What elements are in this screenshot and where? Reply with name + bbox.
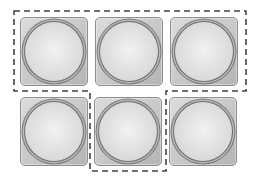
circle-well-icon — [24, 21, 84, 82]
cell-2 — [95, 17, 163, 86]
cell-5 — [94, 97, 162, 166]
circle-well-icon — [99, 21, 159, 82]
cell-1 — [20, 17, 88, 86]
circle-well-icon — [174, 21, 234, 82]
circle-well-icon — [24, 101, 84, 162]
cell-6 — [169, 97, 237, 166]
circle-well-icon — [98, 101, 158, 162]
cell-4 — [20, 97, 88, 166]
circle-well-icon — [173, 101, 233, 162]
cell-3 — [170, 17, 238, 86]
